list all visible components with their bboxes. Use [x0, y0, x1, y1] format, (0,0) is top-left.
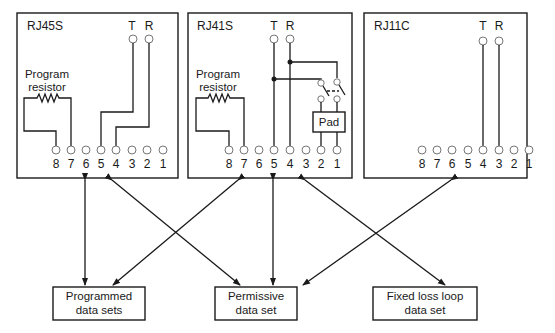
tip-label: T: [128, 19, 136, 33]
svg-text:5: 5: [271, 157, 278, 171]
svg-text:2: 2: [144, 157, 151, 171]
ring-label: R: [495, 19, 504, 33]
svg-text:6: 6: [83, 157, 90, 171]
svg-text:4: 4: [113, 157, 120, 171]
resistor-label-line2: resistor: [28, 81, 66, 93]
tip-label: T: [479, 19, 487, 33]
jack-rj45s: RJ45S T R Program resistor 8 7 6 5 4 3 2…: [17, 13, 178, 178]
svg-text:3: 3: [303, 157, 310, 171]
tip-terminal: [129, 35, 137, 43]
data-set-label-line1: Programmed: [66, 290, 132, 302]
connection-arrows: [85, 180, 451, 285]
jack-wiring-diagram: RJ45S T R Program resistor 8 7 6 5 4 3 2…: [0, 0, 555, 333]
svg-text:8: 8: [226, 157, 233, 171]
svg-text:1: 1: [526, 157, 533, 171]
resistor-label-line1: Program: [196, 68, 240, 80]
ring-label: R: [145, 19, 154, 33]
ring-terminal: [286, 35, 294, 43]
data-set-programmed: Programmed data sets: [53, 287, 145, 320]
svg-text:1: 1: [160, 157, 167, 171]
jack-rj45s-frame: [17, 13, 178, 178]
data-set-label-line2: data sets: [76, 304, 123, 316]
resistor-label-line2: resistor: [199, 81, 237, 93]
svg-text:4: 4: [287, 157, 294, 171]
ring-label: R: [286, 19, 295, 33]
resistor-label-line1: Program: [25, 68, 69, 80]
data-set-fixed-loss-loop: Fixed loss loop data set: [373, 287, 477, 320]
jack-title: RJ41S: [197, 19, 233, 33]
svg-text:8: 8: [53, 157, 60, 171]
ring-terminal: [495, 37, 503, 45]
svg-text:6: 6: [449, 157, 456, 171]
data-set-label-line1: Permissive: [228, 290, 284, 302]
data-set-label-line2: data set: [236, 304, 278, 316]
jack-rj11c-frame: [364, 13, 527, 178]
jack-title: RJ45S: [27, 19, 63, 33]
svg-text:7: 7: [434, 157, 441, 171]
jack-title: RJ11C: [374, 19, 410, 33]
tip-label: T: [270, 19, 278, 33]
data-set-permissive: Permissive data set: [215, 287, 297, 320]
svg-text:7: 7: [241, 157, 248, 171]
svg-text:1: 1: [334, 157, 341, 171]
svg-text:8: 8: [419, 157, 426, 171]
pad-label: Pad: [319, 116, 339, 128]
svg-text:4: 4: [480, 157, 487, 171]
data-set-label-line1: Fixed loss loop: [387, 290, 464, 302]
svg-text:7: 7: [68, 157, 75, 171]
tip-terminal: [270, 35, 278, 43]
svg-text:6: 6: [256, 157, 263, 171]
jack-rj11c: RJ11C T R 8 7 6 5 4 3 2 1: [364, 13, 533, 178]
svg-text:5: 5: [98, 157, 105, 171]
jack-rj41s: RJ41S T R Pad Program resistor: [188, 13, 352, 178]
svg-text:3: 3: [129, 157, 136, 171]
ring-terminal: [145, 35, 153, 43]
svg-text:2: 2: [318, 157, 325, 171]
svg-text:3: 3: [496, 157, 503, 171]
tip-terminal: [479, 37, 487, 45]
data-set-label-line2: data set: [405, 304, 447, 316]
svg-text:2: 2: [511, 157, 518, 171]
svg-text:5: 5: [465, 157, 472, 171]
